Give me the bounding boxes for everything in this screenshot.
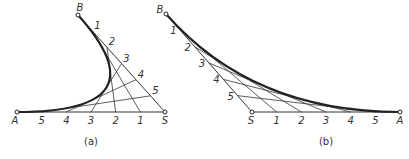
baseline-division-label: 2 bbox=[298, 115, 304, 126]
side-division-label: 1 bbox=[94, 20, 100, 31]
point-B-marker bbox=[164, 12, 168, 16]
side-division-label: 5 bbox=[227, 91, 233, 102]
baseline-division-label: 1 bbox=[273, 115, 279, 126]
baseline-division-label: 5 bbox=[38, 115, 44, 126]
side-division-label: 1 bbox=[170, 25, 176, 36]
parabola-construction-figure: ASB5432112345(a)ASB1234512345(b) bbox=[0, 0, 409, 159]
point-A-marker bbox=[398, 110, 402, 114]
figure-caption: (b) bbox=[319, 136, 333, 147]
label-A: A bbox=[396, 115, 404, 126]
side-division-label: 3 bbox=[123, 53, 129, 64]
baseline-division-label: 1 bbox=[137, 115, 143, 126]
side-division-label: 2 bbox=[109, 36, 115, 47]
label-B: B bbox=[77, 2, 84, 13]
point-A-marker bbox=[15, 110, 19, 114]
point-S-marker bbox=[250, 110, 254, 114]
baseline-division-label: 2 bbox=[112, 115, 118, 126]
label-A: A bbox=[11, 115, 19, 126]
figure-caption: (a) bbox=[84, 136, 98, 147]
baseline-division-label: 4 bbox=[347, 115, 353, 126]
side-division-label: 4 bbox=[138, 69, 144, 80]
figure-b: ASB1234512345(b) bbox=[157, 4, 404, 147]
side-division-label: 2 bbox=[184, 42, 190, 53]
side-division-label: 5 bbox=[152, 85, 158, 96]
figure-a: ASB5432112345(a) bbox=[11, 2, 169, 147]
baseline-division-label: 4 bbox=[63, 115, 69, 126]
label-S: S bbox=[248, 115, 255, 126]
point-B-marker bbox=[76, 13, 80, 17]
baseline-division-label: 3 bbox=[88, 115, 94, 126]
label-S: S bbox=[162, 115, 169, 126]
label-B: B bbox=[157, 4, 164, 15]
point-S-marker bbox=[163, 110, 167, 114]
baseline-division-label: 5 bbox=[372, 115, 378, 126]
side-division-label: 4 bbox=[213, 74, 219, 85]
side-division-label: 3 bbox=[199, 58, 205, 69]
baseline-division-label: 3 bbox=[323, 115, 329, 126]
